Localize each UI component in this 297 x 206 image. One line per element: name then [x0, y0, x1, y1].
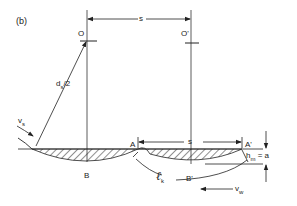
spacing-label-bottom: s — [188, 138, 192, 146]
work-velocity-label: vw — [235, 185, 243, 195]
spacing-label-top: s — [139, 15, 143, 23]
wheel-velocity-arrow — [17, 126, 33, 136]
radius-label: ds/2 — [56, 80, 70, 90]
point-label-a: A — [130, 141, 135, 149]
wheel-velocity-label: vs — [18, 117, 25, 127]
contact-tick-a — [133, 152, 138, 157]
chip-region-2 — [138, 148, 242, 160]
max-depth-label: hm = a — [246, 152, 269, 162]
radius-arrow — [36, 42, 86, 146]
point-label-a-prime: A' — [245, 141, 252, 149]
chip-region-1 — [32, 149, 138, 161]
point-label-b: B — [84, 172, 89, 180]
center-label-o: O — [78, 30, 84, 38]
contact-length-label: ℓk — [156, 170, 164, 184]
panel-label: (b) — [16, 17, 27, 26]
center-label-o-prime: O' — [181, 30, 189, 38]
wheel-arc — [18, 138, 32, 149]
point-label-b-prime: B' — [186, 175, 193, 183]
diagram-canvas — [0, 0, 297, 206]
